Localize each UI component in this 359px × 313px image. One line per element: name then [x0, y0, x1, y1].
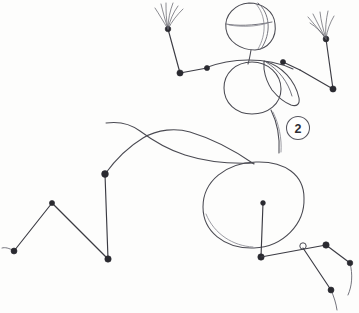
back-contour-group: [105, 122, 254, 174]
right-knee-joint: [323, 242, 329, 248]
right-ankle-joint: [347, 260, 353, 266]
pelvis-center-top-joint: [261, 201, 266, 206]
left-shoulder-joint: [204, 65, 209, 70]
left-ankle-joint: [49, 200, 54, 205]
right-elbow-joint: [330, 86, 336, 92]
left-upper-arm-bone: [180, 68, 207, 73]
figure-drawing: 2: [0, 0, 359, 313]
right-hand-bone: [326, 39, 333, 89]
left-elbow-joint: [177, 70, 183, 76]
pelvis-oval: [203, 162, 304, 248]
sketch-canvas: 2: [0, 0, 359, 313]
left-knee-joint: [105, 256, 111, 262]
left-hand-fingers: [155, 3, 183, 29]
pelvis-center-bone: [261, 203, 263, 257]
pelvis-group: [203, 162, 304, 260]
step-number-2-text: 2: [295, 122, 302, 136]
right-leg-group: [261, 242, 353, 310]
head-vertical-construction-arc: [258, 3, 268, 49]
left-shin-bone: [52, 203, 108, 259]
left-leg-group: [2, 171, 111, 263]
left-forearm-bone: [168, 29, 180, 73]
right-hand-fingers: [308, 11, 334, 39]
right-shoulder-joint: [280, 59, 285, 64]
right-secondary-shin-bone: [303, 248, 331, 290]
head-vertical-construction-arc-secondary: [256, 4, 264, 49]
right-foot-joint: [328, 287, 334, 293]
upper-back-contour: [106, 122, 254, 163]
pelvis-inner-contour: [206, 214, 253, 247]
left-hip-joint: [102, 171, 109, 178]
left-foot-bone: [14, 203, 52, 251]
left-arm-group: [155, 3, 210, 76]
right-forearm-bone: [300, 70, 333, 89]
chest-circle: [224, 62, 281, 114]
right-shin-bone: [326, 245, 350, 263]
right-arm-group: [280, 11, 336, 92]
step-number-2-annotation: 2: [287, 117, 310, 140]
torso-group: [205, 60, 299, 153]
right-foot-tip: [348, 263, 352, 295]
left-foot-joint: [11, 248, 17, 254]
left-thigh-bone: [105, 174, 108, 259]
right-thigh-bone: [261, 245, 326, 257]
head-group: [226, 3, 276, 64]
